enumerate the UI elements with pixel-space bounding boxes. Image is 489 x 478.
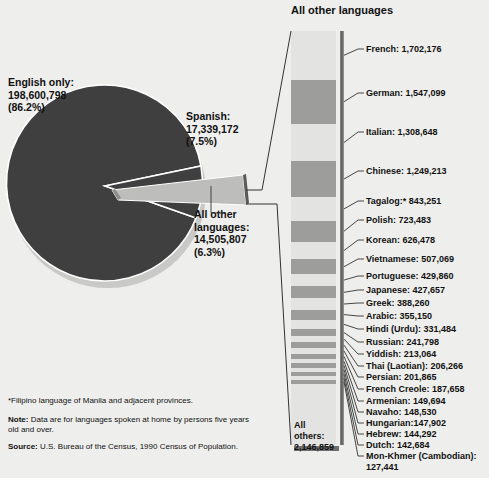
label-tick xyxy=(344,351,364,377)
footnote-source: Source: U.S. Bureau of the Census, 1990 … xyxy=(8,442,258,452)
stacked-bar-segment xyxy=(291,242,336,260)
footnote-asterisk: *Filipino language of Manila and adjacen… xyxy=(8,396,258,406)
label-tick xyxy=(344,171,364,179)
label-tick xyxy=(344,220,364,231)
chart-canvas: English only: 198,600,798 (86.2%) Spanis… xyxy=(0,0,489,478)
footnote-source-label: Source: xyxy=(8,442,38,451)
stacked-bar-segment xyxy=(291,124,336,161)
label-tick xyxy=(344,290,364,292)
stacked-bar-segment xyxy=(291,310,336,320)
label-tick xyxy=(344,303,364,304)
breakout-item-label: Chinese: 1,249,213 xyxy=(366,166,447,176)
breakout-item-label: Yiddish: 213,064 xyxy=(366,349,436,359)
breakout-item-label: Portuguese: 429,860 xyxy=(366,271,454,281)
label-tick xyxy=(344,345,364,366)
label-tick xyxy=(344,49,364,55)
label-tick xyxy=(344,132,364,143)
breakout-item-label: Hungarian:147,902 xyxy=(366,418,446,428)
stacked-bar-segment xyxy=(291,31,336,80)
breakout-item-label: Vietnamese: 507,069 xyxy=(366,254,454,264)
label-tick xyxy=(344,324,364,329)
breakout-item-label: Tagalog:* 843,251 xyxy=(366,196,441,206)
label-tick xyxy=(344,356,364,389)
breakout-item-label: French Creole: 187,658 xyxy=(366,384,465,394)
pie-label-all-other: All other languages: 14,505,807 (6.3%) xyxy=(194,208,249,258)
pie-chart xyxy=(0,0,300,300)
breakout-item-label: German: 1,547,099 xyxy=(366,88,446,98)
label-tick xyxy=(344,339,364,354)
pie-label-spanish: Spanish: 17,339,172 (7.5%) xyxy=(186,110,239,148)
breakout-item-label: French: 1,702,176 xyxy=(366,44,442,54)
breakout-item-label: Thai (Laotian): 206,266 xyxy=(366,361,463,371)
label-tick xyxy=(344,259,364,267)
stacked-bar-segment xyxy=(291,320,336,329)
footnote-note-label: Note: xyxy=(8,415,28,424)
stacked-bar-segment xyxy=(291,274,336,286)
label-tick xyxy=(344,366,364,413)
label-tick xyxy=(344,382,364,456)
breakout-item-label: Arabic: 355,150 xyxy=(366,311,432,321)
stacked-bar-segment xyxy=(291,286,336,298)
footnote-note-text: Data are for languages spoken at home by… xyxy=(8,415,249,434)
breakout-item-label: Italian: 1,308,648 xyxy=(366,127,438,137)
label-tick xyxy=(344,201,364,209)
pie-label-english: English only: 198,600,798 (86.2%) xyxy=(8,76,74,114)
footnote-source-text: U.S. Bureau of the Census, 1990 Census o… xyxy=(38,442,238,451)
breakout-item-label: Korean: 626,478 xyxy=(366,235,435,245)
stacked-bar-segment xyxy=(291,197,336,221)
stacked-bar-segment xyxy=(291,329,336,336)
stacked-bar xyxy=(291,31,336,445)
breakout-item-label: Hebrew: 144,292 xyxy=(366,429,437,439)
breakout-item-label: Russian: 241,798 xyxy=(366,337,439,347)
label-tick xyxy=(344,374,364,434)
axis-rail xyxy=(340,31,344,445)
breakout-item-label: Japanese: 427,657 xyxy=(366,285,445,295)
label-tick xyxy=(344,361,364,401)
stacked-bar-segment xyxy=(291,221,336,242)
label-tick xyxy=(344,378,364,445)
breakout-item-label: Persian: 201,865 xyxy=(366,372,437,382)
footnotes: *Filipino language of Manila and adjacen… xyxy=(8,396,258,459)
stacked-bar-segment xyxy=(291,259,336,273)
breakout-title: All other languages xyxy=(291,4,393,16)
breakout-item-label: Mon-Khmer (Cambodian): 127,441 xyxy=(366,451,488,472)
label-tick xyxy=(344,333,364,342)
breakout-item-label: Greek: 388,260 xyxy=(366,298,430,308)
stacked-bar-all-others-label: All others: 2,146,859 xyxy=(294,420,338,453)
label-tick xyxy=(344,315,364,316)
stacked-bar-segment xyxy=(291,80,336,124)
footnote-note: Note: Data are for languages spoken at h… xyxy=(8,415,258,435)
breakout-item-label: Armenian: 149,694 xyxy=(366,396,446,406)
breakout-item-label: Navaho: 148,530 xyxy=(366,407,437,417)
stacked-bar-segment xyxy=(291,161,336,197)
breakout-item-label: Polish: 723,483 xyxy=(366,215,431,225)
label-tick xyxy=(344,276,364,280)
label-ticks xyxy=(344,49,364,456)
label-tick xyxy=(344,370,364,423)
label-tick xyxy=(344,93,364,102)
label-tick xyxy=(344,240,364,251)
breakout-item-label: Dutch: 142,684 xyxy=(366,440,430,450)
stacked-bar-segment xyxy=(291,298,336,309)
breakout-item-label: Hindi (Urdu): 331,484 xyxy=(366,324,456,334)
